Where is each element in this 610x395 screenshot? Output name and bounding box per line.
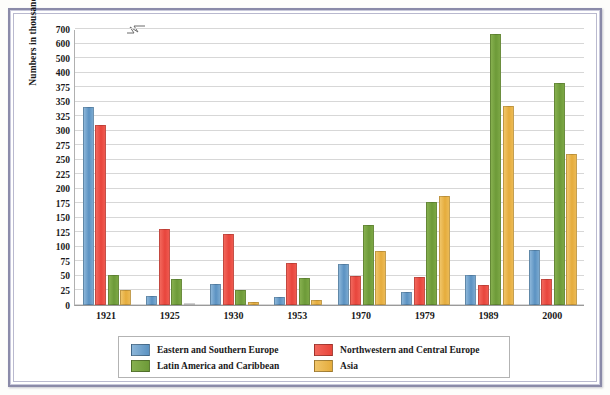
bar-1970-series-1 [350, 276, 361, 305]
legend-item-latin-america-and-caribbean: Latin America and Caribbean [127, 360, 314, 372]
bar-2000-series-2 [554, 83, 565, 305]
y-axis-tick-label: 275 [36, 141, 70, 151]
plot-area [74, 30, 584, 306]
y-axis-tick-label: 250 [36, 156, 70, 166]
bar-1921-series-1 [95, 125, 106, 305]
gridline [75, 86, 584, 87]
bar-1930-series-0 [210, 284, 221, 305]
bar-1970-series-0 [338, 264, 349, 305]
bar-1921-series-0 [83, 107, 94, 305]
y-axis-tick-labels: 0255075100125150175200225250275300325350… [32, 30, 70, 306]
gridline [75, 101, 584, 102]
bar-2000-series-0 [529, 250, 540, 305]
y-axis-tick-label: 50 [36, 272, 70, 282]
bar-1953-series-2 [299, 278, 310, 305]
legend-swatch-icon [314, 344, 333, 356]
y-axis-tick-label: 400 [36, 69, 70, 79]
x-axis-tick-label: 1930 [198, 310, 268, 321]
x-axis-tick-label: 1970 [326, 310, 396, 321]
bar-1989-series-2 [490, 34, 501, 305]
legend-swatch-icon [131, 360, 150, 372]
legend-item-eastern-and-southern-europe: Eastern and Southern Europe [127, 344, 314, 356]
x-axis-tick-label: 2000 [517, 310, 587, 321]
legend-row: Eastern and Southern Europe Northwestern… [127, 342, 501, 358]
bar-1930-series-2 [235, 290, 246, 305]
y-axis-tick-label: 100 [36, 243, 70, 253]
y-axis-tick-label: 0 [36, 301, 70, 311]
bar-1970-series-3 [375, 251, 386, 305]
legend-item-asia: Asia [314, 360, 501, 372]
bar-1953-series-0 [274, 297, 285, 305]
bar-1930-series-3 [248, 302, 259, 305]
figure-inner-border: Numbers in thousands 0255075100125150175… [13, 13, 597, 382]
y-axis-tick-label: 350 [36, 98, 70, 108]
x-axis-tick-label: 1921 [71, 310, 141, 321]
bar-1921-series-3 [120, 290, 131, 305]
y-axis-tick-label: 200 [36, 185, 70, 195]
y-axis-tick-label: 125 [36, 229, 70, 239]
gridline [75, 28, 584, 29]
y-axis-tick-label: 325 [36, 112, 70, 122]
x-axis-tick-label: 1953 [262, 310, 332, 321]
chart-legend: Eastern and Southern Europe Northwestern… [118, 336, 510, 378]
x-axis-tick-label: 1989 [453, 310, 523, 321]
legend-label: Latin America and Caribbean [157, 361, 279, 371]
bar-chart: Numbers in thousands 0255075100125150175… [14, 14, 602, 387]
bar-1979-series-1 [414, 277, 425, 305]
legend-label: Asia [340, 361, 358, 371]
gridline [75, 57, 584, 58]
y-axis-tick-label: 150 [36, 214, 70, 224]
legend-swatch-icon [314, 360, 333, 372]
bar-1930-series-1 [223, 234, 234, 305]
bar-1989-series-3 [503, 106, 514, 305]
y-axis-tick-label: 600 [36, 40, 70, 50]
figure-border: Numbers in thousands 0255075100125150175… [8, 8, 602, 387]
y-axis-tick-label: 175 [36, 200, 70, 210]
x-axis-tick-label: 1979 [390, 310, 460, 321]
legend-row: Latin America and Caribbean Asia [127, 358, 501, 374]
y-axis-tick-label: 300 [36, 127, 70, 137]
bar-2000-series-3 [566, 154, 577, 305]
bar-1979-series-3 [439, 196, 450, 305]
axis-break-icon [127, 23, 145, 37]
y-axis-tick-label: 225 [36, 171, 70, 181]
y-axis-tick-label: 375 [36, 83, 70, 93]
bar-1989-series-0 [465, 275, 476, 305]
gridline [75, 43, 584, 44]
bar-1989-series-1 [478, 285, 489, 305]
x-axis-tick-label: 1925 [135, 310, 205, 321]
bar-1970-series-2 [363, 225, 374, 305]
bar-1979-series-0 [401, 292, 412, 305]
bar-1953-series-3 [311, 300, 322, 305]
bar-1953-series-1 [286, 263, 297, 305]
legend-label: Northwestern and Central Europe [340, 345, 479, 355]
bar-1925-series-2 [171, 279, 182, 305]
bar-1921-series-2 [108, 275, 119, 305]
legend-label: Eastern and Southern Europe [157, 345, 279, 355]
bar-1925-series-3 [184, 303, 195, 305]
legend-swatch-icon [131, 344, 150, 356]
y-axis-tick-label: 500 [36, 54, 70, 64]
gridline [75, 72, 584, 73]
y-axis-tick-label: 75 [36, 258, 70, 268]
bar-1925-series-0 [146, 296, 157, 305]
y-axis-tick-label: 25 [36, 287, 70, 297]
y-axis-tick-label: 700 [36, 25, 70, 35]
legend-item-northwestern-and-central-europe: Northwestern and Central Europe [314, 344, 501, 356]
bar-1979-series-2 [426, 202, 437, 305]
bar-2000-series-1 [541, 279, 552, 305]
bar-1925-series-1 [159, 229, 170, 305]
